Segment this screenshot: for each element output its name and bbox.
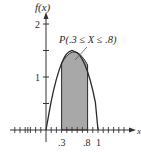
x-axis-arrow-icon (129, 128, 136, 133)
x-tick-label-1: 1 (96, 137, 101, 148)
y-tick-label-2: 2 (35, 19, 40, 30)
probability-density-chart: f(x) 2 1 .3 .8 1 x P(.3 ≤ X ≤ .8) (0, 0, 141, 152)
y-tick-label-1: 1 (35, 72, 40, 83)
x-tick-label-08: .8 (83, 137, 91, 148)
x-axis-label: x (136, 126, 141, 136)
probability-annotation: P(.3 ≤ X ≤ .8) (58, 34, 117, 46)
y-axis-arrow-icon (44, 12, 49, 19)
y-axis-label: f(x) (35, 1, 51, 14)
x-tick-label-03: .3 (58, 137, 66, 148)
